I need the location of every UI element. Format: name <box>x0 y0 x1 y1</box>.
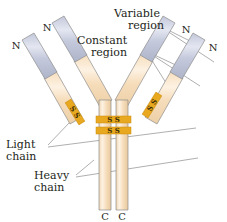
c-terminus-right: C <box>118 211 126 222</box>
disulfide-label-hinge-upper: S S <box>107 115 120 124</box>
heavy-chain-left-constant-region-arm <box>74 54 112 107</box>
antibody-diagram-svg: S S S S S S S S N N N N C C <box>0 0 227 222</box>
n-terminus-far-right: N <box>209 42 218 53</box>
leader-heavy-to-left-heavy <box>76 160 94 175</box>
label-constant-region-line2: region <box>91 46 127 59</box>
label-heavy-chain-line2: chain <box>34 181 64 194</box>
disulfide-bond-heavy-heavy-upper: S S <box>96 115 131 124</box>
annotations-group: Variable region Constant region Light ch… <box>6 7 164 194</box>
disulfide-label-hinge-lower: S S <box>107 126 120 135</box>
label-light-chain-line2: chain <box>6 150 36 163</box>
light-chain-left-variable-region <box>22 33 57 79</box>
n-terminus-inner-left: N <box>43 22 52 33</box>
c-terminus-left: C <box>101 211 109 222</box>
leader-light-to-left-arm <box>48 122 70 145</box>
heavy-chain-right-constant-region-arm <box>115 54 153 107</box>
antibody-structure-figure: S S S S S S S S N N N N C C <box>0 0 227 222</box>
disulfide-bond-heavy-heavy-lower: S S <box>96 126 131 135</box>
n-terminus-far-left: N <box>12 40 21 51</box>
n-terminus-inner-right: N <box>182 24 191 35</box>
leader-heavy-to-right-heavy <box>76 158 198 177</box>
label-variable-region-line2: region <box>128 19 164 32</box>
c-termini-group: C C <box>101 211 126 222</box>
